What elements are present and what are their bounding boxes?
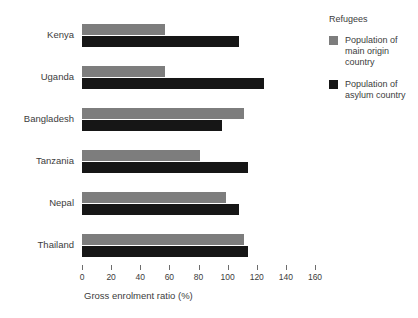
legend-swatch-icon [329, 36, 338, 45]
x-tick-label: 40 [136, 272, 145, 282]
legend-title: Refugees [329, 14, 417, 25]
bar-chart: KenyaUgandaBangladeshTanzaniaNepalThaila… [0, 0, 418, 318]
bar-asylum [82, 204, 239, 215]
legend-item: Population of main origin country [329, 35, 417, 68]
category-label: Thailand [2, 240, 74, 250]
bar-asylum [82, 78, 264, 89]
category-label: Kenya [2, 30, 74, 40]
bar-origin [82, 234, 244, 245]
x-tick-mark [199, 265, 200, 270]
bar-asylum [82, 120, 222, 131]
x-tick-label: 80 [194, 272, 203, 282]
legend-item-label: Population of asylum country [345, 79, 417, 101]
bar-origin [82, 66, 165, 77]
x-tick-mark [257, 265, 258, 270]
category-label: Bangladesh [2, 114, 74, 124]
x-tick-label: 20 [106, 272, 115, 282]
x-tick-label: 120 [250, 272, 264, 282]
legend-items: Population of main origin countryPopulat… [329, 35, 417, 101]
bar-origin [82, 24, 165, 35]
x-tick-mark [140, 265, 141, 270]
legend-swatch-icon [329, 80, 338, 89]
bar-asylum [82, 246, 248, 257]
x-tick-mark [169, 265, 170, 270]
x-tick-label: 160 [308, 272, 322, 282]
x-tick-mark [315, 265, 316, 270]
x-axis-title: Gross enrolment ratio (%) [84, 290, 193, 301]
category-axis-labels: KenyaUgandaBangladeshTanzaniaNepalThaila… [0, 14, 74, 262]
x-tick-label: 140 [279, 272, 293, 282]
category-label: Uganda [2, 72, 74, 82]
x-tick-mark [286, 265, 287, 270]
bar-asylum [82, 36, 239, 47]
bar-origin [82, 108, 244, 119]
category-label: Tanzania [2, 156, 74, 166]
x-tick-mark [111, 265, 112, 270]
x-tick-label: 60 [165, 272, 174, 282]
x-tick-label: 100 [221, 272, 235, 282]
legend: Refugees Population of main origin count… [329, 14, 417, 112]
x-tick-mark [82, 265, 83, 270]
bar-asylum [82, 162, 248, 173]
plot-area [82, 14, 315, 262]
bar-origin [82, 192, 226, 203]
bar-origin [82, 150, 200, 161]
x-tick-mark [228, 265, 229, 270]
category-label: Nepal [2, 198, 74, 208]
x-axis: 020406080100120140160 [82, 265, 315, 291]
legend-item-label: Population of main origin country [345, 35, 417, 68]
legend-item: Population of asylum country [329, 79, 417, 101]
x-tick-label: 0 [80, 272, 85, 282]
